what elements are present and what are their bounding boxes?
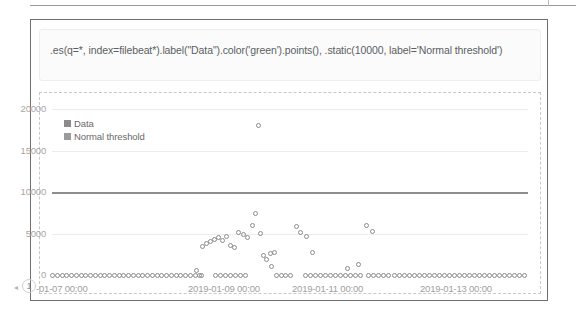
chart-legend: DataNormal threshold [64,114,145,140]
legend-swatch-icon [64,133,71,140]
screenshot-root: .es(q=*, index=filebeat*).label("Data").… [0,0,580,322]
legend-label: Normal threshold [74,131,145,142]
expression-input[interactable]: .es(q=*, index=filebeat*).label("Data").… [39,29,541,81]
visualization-panel: .es(q=*, index=filebeat*).label("Data").… [30,19,548,301]
top-divider-rule [30,5,576,6]
legend-item[interactable]: Normal threshold [64,127,145,140]
corner-arrow-icon: ◂ [14,283,18,292]
top-divider-tick [548,0,549,6]
legend-item[interactable]: Data [64,114,145,127]
corner-marker-badge[interactable]: 1 [22,279,36,293]
expression-text[interactable]: .es(q=*, index=filebeat*).label("Data").… [50,44,536,57]
